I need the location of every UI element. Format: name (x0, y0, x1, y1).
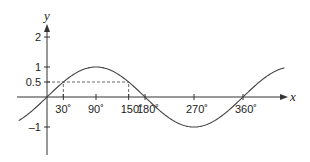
x-tick-label: 360˚ (235, 103, 257, 115)
y-tick-label: 1 (35, 61, 41, 73)
x-tick-label: 270˚ (186, 103, 208, 115)
x-tick-label: 90˚ (88, 103, 104, 115)
y-tick-label: 2 (35, 31, 41, 43)
dashed-guides (47, 82, 129, 97)
y-axis-label: y (42, 8, 50, 23)
ticks: 30˚90˚150˚180˚270˚360˚210.5–1 (26, 31, 257, 133)
y-axis-arrow-icon (44, 24, 50, 32)
x-tick-label: 180˚ (137, 103, 159, 115)
sine-chart: x y 30˚90˚150˚180˚270˚360˚210.5–1 (0, 0, 310, 162)
x-axis-label: x (289, 89, 296, 104)
x-tick-label: 30˚ (55, 103, 71, 115)
y-tick-label: 0.5 (26, 76, 41, 88)
y-tick-label: –1 (29, 121, 41, 133)
x-axis-arrow-icon (280, 94, 288, 100)
axes: x y (17, 8, 296, 155)
